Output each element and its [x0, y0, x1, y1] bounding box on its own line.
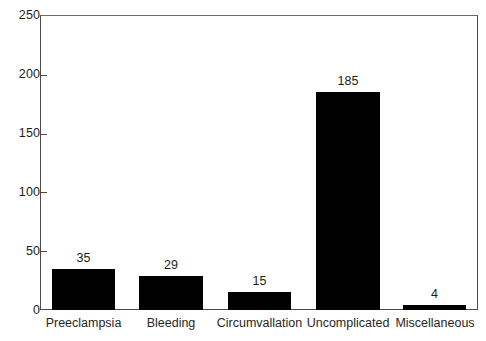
bar-chart: 250 200 150 100 50 0 35 29 15 185 4 Pree… — [0, 0, 486, 341]
x-axis-label-preeclampsia: Preeclampsia — [38, 316, 129, 330]
bar-value-label: 4 — [403, 288, 466, 301]
bar-circumvallation[interactable] — [228, 292, 291, 310]
bar-preeclampsia[interactable] — [52, 269, 115, 310]
bar-miscellaneous[interactable] — [403, 305, 466, 310]
bar-value-label: 35 — [52, 252, 115, 265]
bar-value-label: 185 — [316, 75, 380, 88]
x-axis-label-circumvallation: Circumvallation — [210, 316, 309, 330]
bar-bleeding[interactable] — [139, 276, 203, 310]
bars-layer: 35 29 15 185 4 — [0, 0, 486, 341]
bar-value-label: 29 — [139, 259, 203, 272]
x-axis-label-bleeding: Bleeding — [125, 316, 217, 330]
x-axis-label-miscellaneous: Miscellaneous — [389, 316, 481, 330]
bar-value-label: 15 — [228, 275, 291, 288]
bar-uncomplicated[interactable] — [316, 92, 380, 310]
x-axis-label-uncomplicated: Uncomplicated — [302, 316, 394, 330]
